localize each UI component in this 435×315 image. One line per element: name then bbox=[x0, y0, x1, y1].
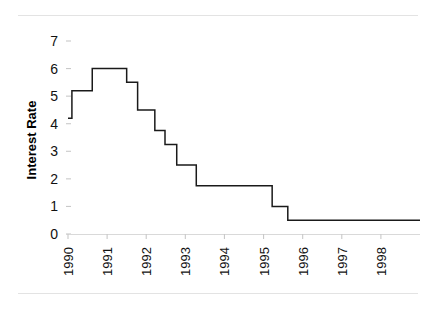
y-tick-label: 7 bbox=[50, 33, 58, 49]
x-tick-label: 1991 bbox=[100, 247, 115, 276]
y-tick-label: 5 bbox=[50, 88, 58, 104]
y-tick-label: 1 bbox=[50, 198, 58, 214]
interest-rate-step-chart: Interest Rate 01234567 19901991199219931… bbox=[0, 0, 435, 315]
x-tick-label: 1998 bbox=[374, 247, 389, 276]
series-line-interest-rate bbox=[68, 69, 420, 221]
y-tick-label: 4 bbox=[50, 116, 58, 132]
x-tick-label: 1992 bbox=[139, 247, 154, 276]
y-tick-label: 0 bbox=[50, 226, 58, 242]
y-tick-label: 3 bbox=[50, 143, 58, 159]
y-axis-ticks: 01234567 bbox=[50, 33, 71, 242]
x-tick-label: 1997 bbox=[335, 247, 350, 276]
x-axis-ticks: 199019911992199319941995199619971998 bbox=[61, 234, 389, 276]
chart-figure: Interest Rate 01234567 19901991199219931… bbox=[0, 0, 435, 315]
y-tick-label: 2 bbox=[50, 171, 58, 187]
y-tick-label: 6 bbox=[50, 61, 58, 77]
x-tick-label: 1996 bbox=[296, 247, 311, 276]
x-tick-label: 1993 bbox=[178, 247, 193, 276]
y-axis-label: Interest Rate bbox=[24, 101, 39, 180]
x-tick-label: 1994 bbox=[217, 247, 232, 276]
data-series-group bbox=[68, 69, 420, 221]
x-tick-label: 1995 bbox=[257, 247, 272, 276]
x-tick-label: 1990 bbox=[61, 247, 76, 276]
